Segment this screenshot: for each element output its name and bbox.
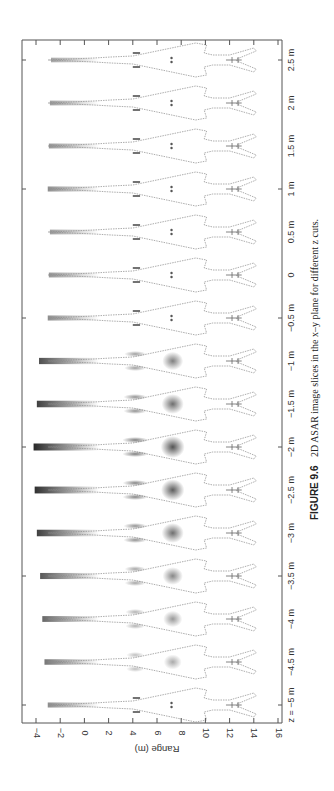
slice bbox=[34, 430, 257, 464]
slice bbox=[40, 559, 256, 593]
image-slices bbox=[34, 43, 257, 722]
z-tick-label: 0.5 m bbox=[286, 221, 296, 244]
range-tick-label: 12 bbox=[225, 728, 235, 738]
slice bbox=[37, 387, 256, 421]
z-tick-label: −1.5 m bbox=[286, 390, 296, 418]
svg-text:FIGURE 9.6 2D ASAR image: FIGURE 9.6 2D ASAR image slices in the x… bbox=[309, 219, 320, 520]
slice bbox=[35, 473, 257, 507]
z-tick-label: −2 m bbox=[286, 437, 296, 457]
slice bbox=[48, 301, 256, 335]
z-tick-label: z = −5 m bbox=[286, 687, 296, 722]
range-tick-label: 8 bbox=[177, 730, 187, 735]
z-tick-label: −3 m bbox=[286, 523, 296, 543]
z-tick-label: −4.5 m bbox=[286, 648, 296, 676]
range-tick-label: −4 bbox=[32, 728, 42, 738]
slice bbox=[48, 43, 256, 77]
range-tick-label: 16 bbox=[274, 728, 284, 738]
slice bbox=[39, 344, 256, 378]
range-tick-label: 4 bbox=[128, 730, 138, 735]
asar-figure: −4−20246810121416 z = −5 m−4.5 m−4 m−3.5… bbox=[0, 0, 334, 791]
z-tick-label: 2.5 m bbox=[286, 49, 296, 72]
z-tick-label: −1 m bbox=[286, 351, 296, 371]
z-tick-label: 1.5 m bbox=[286, 135, 296, 158]
caption-body: 2D ASAR image slices in the x–y plane fo… bbox=[309, 219, 320, 457]
z-tick-label: −0.5 m bbox=[286, 304, 296, 332]
z-tick-label: 0 bbox=[286, 272, 296, 277]
z-tick-label: 1 m bbox=[286, 181, 296, 196]
range-tick-label: 2 bbox=[104, 730, 114, 735]
caption-label: FIGURE 9.6 bbox=[309, 465, 320, 520]
range-tick-label: 14 bbox=[249, 728, 259, 738]
slice bbox=[42, 602, 256, 636]
z-tick-label: −3.5 m bbox=[286, 562, 296, 590]
z-tick-label: 2 m bbox=[286, 95, 296, 110]
z-tick-label: −4 m bbox=[286, 609, 296, 629]
figure-caption: FIGURE 9.6 2D ASAR image slices in the x… bbox=[309, 219, 320, 520]
range-axis-title: Range (m) bbox=[135, 744, 180, 755]
range-tick-label: 6 bbox=[153, 730, 163, 735]
range-tick-label: −2 bbox=[56, 728, 66, 738]
slice bbox=[48, 86, 256, 120]
slice bbox=[48, 172, 256, 206]
slice bbox=[48, 129, 256, 163]
range-tick-label: 10 bbox=[201, 728, 211, 738]
slice bbox=[37, 516, 256, 550]
range-tick-label: 0 bbox=[80, 730, 90, 735]
slice bbox=[48, 215, 256, 249]
slice bbox=[48, 688, 256, 722]
slice bbox=[44, 645, 256, 679]
slice bbox=[48, 258, 256, 292]
z-tick-label: −2.5 m bbox=[286, 476, 296, 504]
